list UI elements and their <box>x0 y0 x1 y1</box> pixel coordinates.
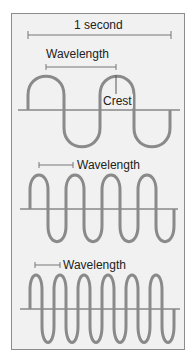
wavelength-label-3: Wavelength <box>63 258 126 272</box>
wavelength-label-1: Wavelength <box>46 47 109 61</box>
wavelength-bar-3 <box>35 262 60 268</box>
one-second-bar <box>28 31 171 39</box>
wavelength-bar-1 <box>46 64 116 70</box>
wavelength-label-2: Wavelength <box>77 158 140 172</box>
wave-1 <box>28 76 170 147</box>
crest-label: Crest <box>102 94 133 108</box>
one-second-label: 1 second <box>74 18 123 32</box>
wave-2 <box>30 175 174 242</box>
wavelength-bar-2 <box>39 162 73 168</box>
